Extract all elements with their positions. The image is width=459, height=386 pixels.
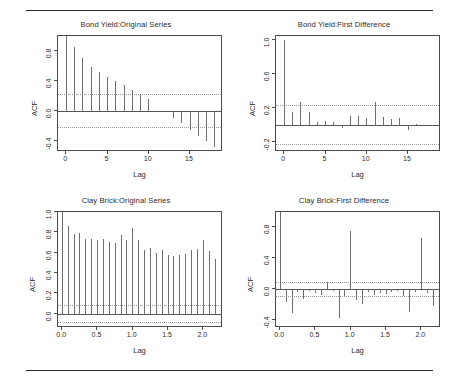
acf-bar: [309, 289, 310, 291]
y-tick-mark: [272, 257, 275, 258]
confidence-band-line: [276, 144, 439, 145]
y-tick-label: 0.4: [45, 79, 52, 89]
confidence-band-line: [276, 296, 439, 297]
y-tick-label: 0.4: [263, 256, 270, 266]
y-tick-label: 0.2: [45, 291, 52, 301]
chart-title: Bond Yield:First Difference: [240, 20, 448, 29]
y-tick-mark: [54, 252, 57, 253]
acf-bar: [66, 36, 67, 111]
bottom-divider-rule: [26, 370, 433, 371]
acf-bar: [150, 248, 151, 314]
acf-bar: [286, 289, 287, 302]
acf-bar: [115, 81, 116, 111]
panel-bond-yield-first-difference: Bond Yield:First Difference ACF -0.20.20…: [240, 20, 448, 190]
acf-bar: [74, 47, 75, 111]
acf-bar: [121, 235, 122, 313]
x-tick-label: 2.0: [197, 331, 207, 338]
acf-bar: [391, 119, 392, 125]
y-tick-label: 0.0: [263, 287, 270, 297]
x-tick-mark: [283, 151, 284, 154]
y-tick-label: 1.0: [263, 38, 270, 48]
y-tick-mark: [272, 39, 275, 40]
acf-bar: [427, 289, 428, 293]
x-axis-label: Lag: [275, 170, 440, 179]
acf-bar: [321, 289, 322, 294]
x-tick-label: 5: [323, 155, 327, 162]
panel-clay-brick-original: Clay Brick:Original Series ACF 0.00.20.4…: [22, 196, 230, 368]
acf-bar: [424, 125, 425, 126]
acf-bar: [115, 243, 116, 314]
y-tick-mark: [272, 288, 275, 289]
acf-bar: [342, 125, 343, 128]
x-tick-mark: [279, 327, 280, 330]
acf-bar: [173, 256, 174, 314]
x-tick-label: 10: [144, 155, 152, 162]
acf-bar: [292, 289, 293, 313]
acf-bar: [409, 289, 410, 311]
confidence-band-line: [276, 282, 439, 283]
x-tick-label: 0: [63, 155, 67, 162]
x-tick-label: 1.0: [127, 331, 137, 338]
acf-bar: [97, 240, 98, 313]
y-tick-label: -0.2: [263, 138, 270, 150]
x-axis-label: Lag: [57, 346, 222, 355]
bars-layer: [58, 36, 221, 150]
x-axis: 0.00.51.01.52.0: [275, 327, 440, 343]
acf-bar: [383, 117, 384, 125]
acf-bar: [148, 99, 149, 111]
y-tick-mark: [54, 211, 57, 212]
acf-bar: [358, 116, 359, 124]
acf-bar: [209, 251, 210, 314]
top-divider-rule: [26, 10, 433, 11]
acf-bar: [85, 239, 86, 313]
acf-bar: [91, 67, 92, 111]
acf-bar: [339, 289, 340, 318]
acf-bar: [366, 118, 367, 125]
x-tick-mark: [202, 327, 203, 330]
y-axis: -0.40.00.40.8: [240, 211, 275, 327]
y-axis: -0.20.20.61.0: [240, 35, 275, 151]
acf-bar: [421, 238, 422, 290]
y-tick-mark: [54, 110, 57, 111]
acf-bar: [368, 289, 369, 291]
acf-bar: [206, 111, 207, 141]
y-tick-label: 0.0: [45, 108, 52, 118]
acf-bar: [91, 239, 92, 313]
y-tick-label: 0.4: [45, 271, 52, 281]
x-tick-label: 0.5: [92, 331, 102, 338]
acf-bar: [386, 289, 387, 294]
acf-bar: [403, 289, 404, 295]
acf-bar: [109, 242, 110, 314]
chart-title: Bond Yield:Original Series: [22, 20, 230, 29]
acf-bar: [126, 240, 127, 313]
x-tick-mark: [65, 151, 66, 154]
x-tick-label: 5: [105, 155, 109, 162]
acf-bar: [325, 121, 326, 125]
y-tick-mark: [272, 107, 275, 108]
y-axis: -0.40.00.40.8: [22, 35, 57, 151]
acf-bar: [300, 102, 301, 125]
panel-clay-brick-first-difference: Clay Brick:First Difference ACF -0.40.00…: [240, 196, 448, 368]
y-tick-mark: [272, 226, 275, 227]
acf-bar: [165, 111, 166, 112]
acf-bar: [415, 289, 416, 292]
y-tick-label: 0.0: [45, 311, 52, 321]
confidence-band-line: [58, 322, 221, 323]
x-tick-label: 1.0: [345, 331, 355, 338]
plot-area: [275, 35, 440, 151]
acf-bar: [197, 249, 198, 314]
acf-bar: [433, 289, 434, 305]
acf-bar: [132, 90, 133, 111]
x-tick-mark: [420, 327, 421, 330]
x-tick-label: 15: [403, 155, 411, 162]
x-tick-label: 0.5: [310, 331, 320, 338]
y-tick-label: 0.8: [45, 49, 52, 59]
y-tick-mark: [54, 272, 57, 273]
x-tick-label: 0: [281, 155, 285, 162]
bars-layer: [276, 212, 439, 326]
acf-bar: [62, 212, 63, 314]
acf-bar: [79, 233, 80, 313]
acf-bar: [215, 259, 216, 314]
acf-bar: [356, 289, 357, 300]
acf-bar: [391, 289, 392, 292]
